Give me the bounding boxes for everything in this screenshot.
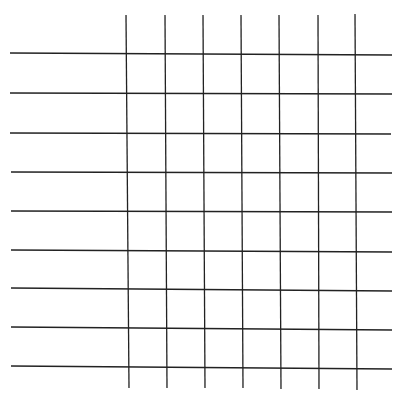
horizontal-grid-line-6: [11, 250, 392, 252]
horizontal-grid-line-2: [10, 93, 392, 94]
vertical-grid-line-7: [355, 14, 357, 390]
horizontal-grid-line-4: [11, 172, 392, 173]
vertical-grid-line-3: [203, 15, 205, 388]
horizontal-grid-line-8: [11, 327, 392, 330]
horizontal-grid-line-9: [11, 366, 392, 369]
horizontal-grid-line-3: [10, 133, 391, 134]
horizontal-grid-line-7: [11, 288, 392, 291]
vertical-grid-line-6: [318, 15, 319, 389]
vertical-grid-line-5: [279, 15, 281, 389]
vertical-grid-line-1: [126, 15, 129, 388]
horizontal-lines-group: [10, 53, 392, 369]
grid-diagram: [0, 0, 400, 402]
vertical-grid-line-2: [165, 15, 167, 388]
horizontal-grid-line-1: [10, 53, 392, 55]
horizontal-grid-line-5: [11, 211, 392, 212]
vertical-lines-group: [126, 14, 357, 390]
vertical-grid-line-4: [241, 15, 243, 388]
grid-lines-drawing: [0, 0, 400, 402]
